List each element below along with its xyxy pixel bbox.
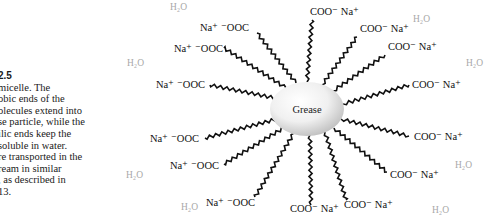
carboxylate-label: COO⁻ Na⁺ <box>310 6 359 17</box>
hydrocarbon-tail <box>334 128 387 172</box>
water-label: H₂O <box>170 2 187 12</box>
water-label: H₂O <box>413 14 430 24</box>
hydrocarbon-tail <box>324 132 347 200</box>
carboxylate-label: Na⁺ ⁻OOC <box>174 43 223 54</box>
micelle-diagram: Grease Na⁺ ⁻OOC Na⁺ ⁻OOC Na⁺ ⁻OOC Na⁺ ⁻O… <box>0 0 488 219</box>
carboxylate-label: COO⁻ Na⁺ <box>388 41 437 52</box>
hydrocarbon-tail <box>308 135 312 205</box>
hydrocarbon-tail <box>254 133 294 197</box>
carboxylate-label: Na⁺ ⁻OOC <box>150 133 199 144</box>
hydrocarbon-tail <box>341 119 409 137</box>
water-label: H₂O <box>181 202 198 212</box>
water-label: H₂O <box>466 58 483 68</box>
hydrocarbon-tail <box>333 55 385 91</box>
water-label: H₂O <box>127 58 144 68</box>
carboxylate-label: Na⁺ ⁻OOC <box>206 197 255 208</box>
carboxylate-label: Na⁺ ⁻OOC <box>156 79 205 90</box>
hydrocarbon-tail <box>210 84 280 99</box>
water-label: H₂O <box>455 160 472 170</box>
hydrocarbon-tail <box>322 37 357 85</box>
water-label: H₂O <box>126 170 143 180</box>
hydrocarbon-tail <box>224 47 286 88</box>
carboxylate-label: COO⁻ Na⁺ <box>414 131 463 142</box>
hydrocarbon-tail <box>224 127 285 165</box>
carboxylate-label: COO⁻ Na⁺ <box>360 23 409 34</box>
carboxylate-label: COO⁻ Na⁺ <box>344 199 393 210</box>
water-label: H₂O <box>432 205 449 215</box>
hydrocarbon-tail <box>306 20 314 82</box>
grease-label: Grease <box>292 104 321 115</box>
carboxylate-label: Na⁺ ⁻OOC <box>170 160 219 171</box>
carboxylate-label: Na⁺ ⁻OOC <box>200 22 249 33</box>
hydrocarbon-tail <box>343 85 409 105</box>
carboxylate-label: COO⁻ Na⁺ <box>390 169 439 180</box>
carboxylate-label: COO⁻ Na⁺ <box>290 203 339 214</box>
carboxylate-label: COO⁻ Na⁺ <box>412 79 461 90</box>
